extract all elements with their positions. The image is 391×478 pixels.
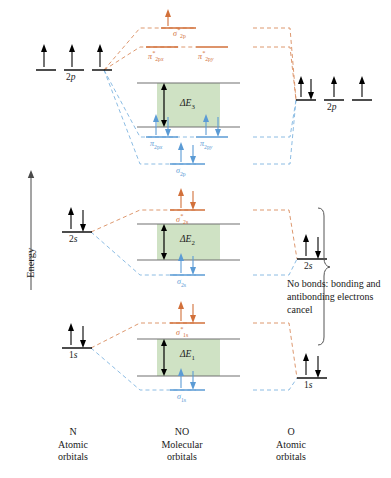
footer-center: NO Molecular orbitals — [139, 426, 225, 464]
atomic-label-right-2p: 2p — [327, 102, 337, 112]
mo-diagram-canvas: 2p 2s 1s 2p 2s 1s σ*2p π*2px π*2py π2px … — [0, 0, 391, 478]
atomic-label-right-2s: 2s — [304, 261, 312, 271]
mo-level-sigma-star-2s — [170, 188, 205, 210]
mo-label-pi-star-2px: π*2px — [148, 49, 163, 62]
mo-diagram-svg — [0, 0, 391, 478]
mo-label-sigma-1s: σ1s — [177, 392, 186, 403]
summary-note: No bonds: bonding and antibonding electr… — [287, 277, 387, 316]
energy-gap-boxes — [137, 83, 240, 376]
electrons-left-1s — [68, 323, 86, 348]
footer-left-line1: Atomic — [30, 439, 116, 452]
mo-level-sigma-star-1s — [170, 301, 205, 323]
atomic-label-left-2p: 2p — [66, 72, 76, 82]
electrons-left-2p — [41, 44, 103, 67]
mo-label-sigma-2p: σ2p — [176, 166, 186, 177]
atomic-label-left-1s: 1s — [69, 350, 77, 360]
gap-label-3: ΔE3 — [180, 98, 195, 110]
atomic-label-left-2s: 2s — [69, 234, 77, 244]
electrons-right-1s — [303, 353, 321, 378]
gap-label-2: ΔE2 — [180, 234, 195, 246]
footer-left-species: N — [30, 426, 116, 439]
footer-left-line2: orbitals — [30, 451, 116, 464]
electrons-right-2s — [303, 234, 321, 259]
mo-label-sigma-star-2s: σ*2s — [176, 212, 188, 225]
mo-label-pi-star-2py: π*2py — [198, 49, 213, 62]
gap-label-1: ΔE1 — [180, 349, 195, 361]
atomic-label-right-1s: 1s — [304, 380, 312, 390]
energy-axis-label: Energy — [25, 248, 36, 278]
mo-label-sigma-star-1s: σ*1s — [176, 325, 188, 338]
footer-right-species: O — [248, 426, 334, 439]
electrons-right-2p — [298, 76, 365, 100]
footer-center-line2: orbitals — [139, 451, 225, 464]
footer-right-line1: Atomic — [248, 439, 334, 452]
footer-center-species: NO — [139, 426, 225, 439]
mo-label-pi-2py: π2py — [200, 139, 212, 150]
electrons-left-2s — [68, 207, 86, 232]
footer-right-line2: orbitals — [248, 451, 334, 464]
mo-label-pi-2px: π2px — [150, 139, 162, 150]
mo-label-sigma-star-2p: σ*2p — [173, 26, 186, 39]
footer-left: N Atomic orbitals — [30, 426, 116, 464]
mo-label-sigma-2s: σ2s — [177, 277, 186, 288]
footer-right: O Atomic orbitals — [248, 426, 334, 464]
footer-center-line1: Molecular — [139, 439, 225, 452]
